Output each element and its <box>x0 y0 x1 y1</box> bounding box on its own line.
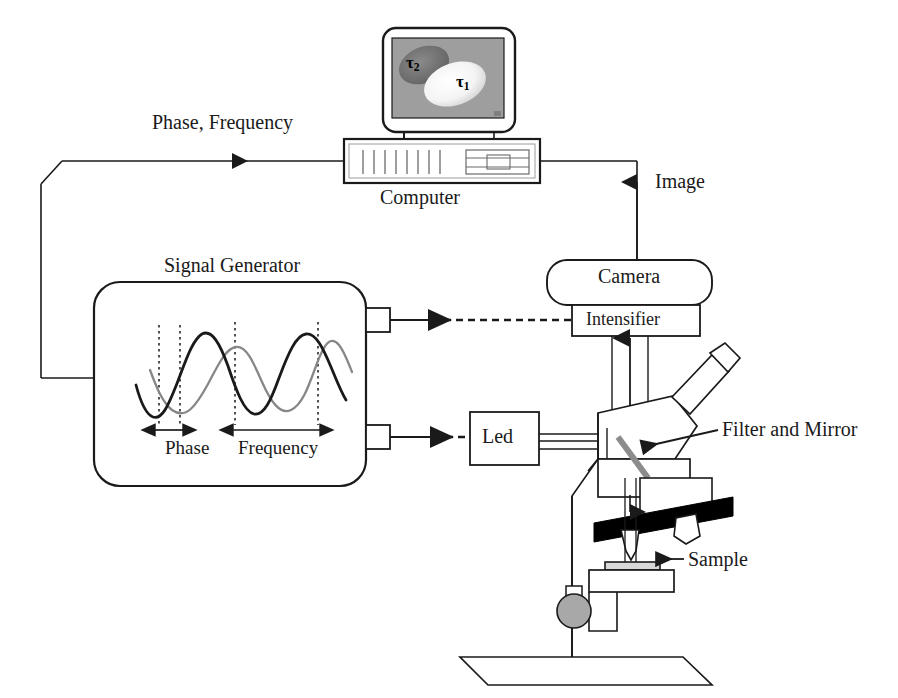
label-intensifier: Intensifier <box>586 309 660 330</box>
eyepiece-tube <box>672 343 740 414</box>
tau2-subscript: 2 <box>414 61 420 74</box>
microscope-column <box>566 496 582 657</box>
label-frequency: Frequency <box>238 437 318 459</box>
computer-monitor <box>383 28 515 140</box>
label-phase: Phase <box>165 437 209 459</box>
tau2-symbol: τ <box>406 53 414 72</box>
image-signal-line <box>540 161 637 262</box>
focus-knob <box>557 594 591 628</box>
signal-generator-box <box>94 282 366 486</box>
label-phase-frequency: Phase, Frequency <box>152 111 293 134</box>
label-signal-generator: Signal Generator <box>164 254 300 277</box>
schematic-svg <box>0 0 898 698</box>
label-tau1: τ1 <box>456 72 470 93</box>
microscope-stage <box>589 570 674 592</box>
tau1-symbol: τ <box>456 72 464 91</box>
label-filter-and-mirror: Filter and Mirror <box>722 418 858 441</box>
label-computer: Computer <box>380 186 460 209</box>
label-sample: Sample <box>688 548 748 571</box>
computer-base <box>344 139 540 183</box>
diagram-canvas: Phase, Frequency Computer Image Signal G… <box>0 0 898 698</box>
label-tau2: τ2 <box>406 53 420 74</box>
microscope-base <box>460 657 712 685</box>
label-led: Led <box>482 425 513 448</box>
label-camera: Camera <box>598 265 660 288</box>
led-beam-lines <box>539 434 607 449</box>
label-image: Image <box>655 170 705 193</box>
sample-slide <box>605 562 660 570</box>
signal-generator-port-bottom <box>366 425 390 449</box>
tau1-subscript: 1 <box>464 80 470 93</box>
objective-lens-side <box>674 514 700 544</box>
signal-generator-port-top <box>366 308 390 332</box>
